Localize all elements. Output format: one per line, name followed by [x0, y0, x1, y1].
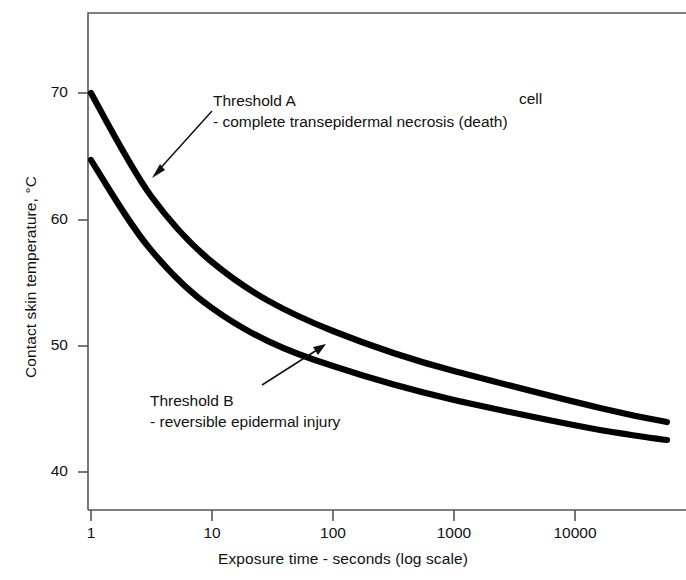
- x-tick-label-10000: 10000: [535, 524, 615, 542]
- x-tick-label-100: 100: [293, 524, 373, 542]
- y-tick-label-50: 50: [28, 336, 68, 354]
- y-tick-label-60: 60: [28, 210, 68, 228]
- annotation-threshold-a-description: - complete transepidermal necrosis (deat…: [213, 111, 508, 132]
- annotation-threshold-a-title: Threshold A: [213, 92, 296, 109]
- series-threshold-a-curve: [91, 93, 667, 422]
- annotation-threshold-b-title: Threshold B: [150, 392, 234, 409]
- annotation-threshold-b-description: - reversible epidermal injury: [150, 411, 340, 432]
- y-tick-label-70: 70: [28, 83, 68, 101]
- x-tick-label-1000: 1000: [414, 524, 494, 542]
- figure-container: Contact skin temperature, °C Exposure ti…: [0, 0, 686, 580]
- annotation-threshold-a: Threshold A - complete transepidermal ne…: [213, 90, 508, 132]
- threshold-a-leader-arrow: [152, 111, 212, 178]
- x-tick-label-10: 10: [172, 524, 252, 542]
- chart-canvas: [0, 0, 686, 580]
- annotation-stray-cell-text: cell: [519, 90, 542, 108]
- x-axis-title: Exposure time - seconds (log scale): [0, 550, 686, 568]
- y-axis-ticks: [78, 93, 88, 472]
- y-tick-label-40: 40: [28, 462, 68, 480]
- annotation-threshold-b: Threshold B - reversible epidermal injur…: [150, 390, 340, 432]
- plot-frame: [88, 13, 686, 510]
- x-tick-label-1: 1: [51, 524, 131, 542]
- x-axis-ticks: [91, 510, 575, 521]
- y-axis-title: Contact skin temperature, °C: [22, 162, 40, 392]
